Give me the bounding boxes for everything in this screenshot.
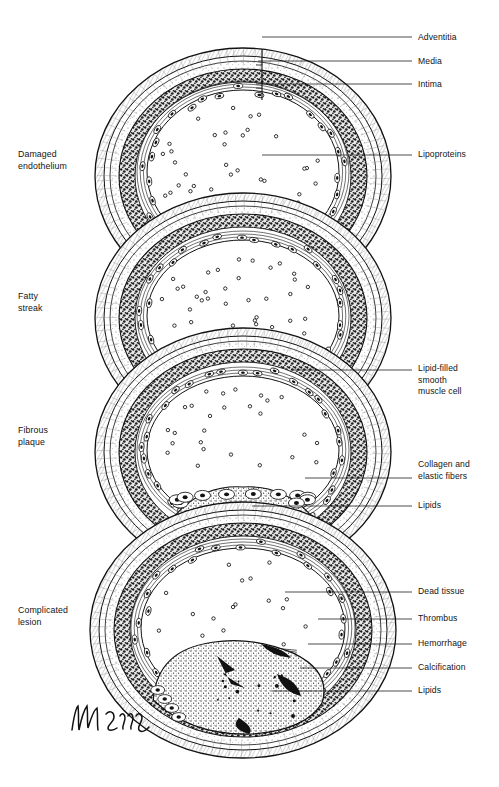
callout-label-lipoproteins: Lipoproteins (418, 149, 466, 161)
callout-label-lipid-filled-smooth-muscle-cell: Lipid-filled smooth muscle cell (418, 363, 462, 398)
callout-label-hemorrhage: Hemorrhage (418, 638, 467, 650)
ring-complicated-lesion (90, 502, 396, 758)
stage-label-fatty-streak: Fatty streak (18, 290, 43, 314)
callout-label-thrombus: Thrombus (418, 613, 458, 625)
callout-label-calcification: Calcification (418, 662, 466, 674)
stage-label-complicated-lesion: Complicated lesion (18, 604, 68, 628)
stage-label-damaged-endothelium: Damaged endothelium (18, 148, 67, 172)
callout-label-media: Media (418, 56, 442, 68)
callout-label-dead-tissue: Dead tissue (418, 586, 464, 598)
callout-label-intima: Intima (418, 79, 442, 91)
callout-label-adventitia: Adventitia (418, 32, 457, 44)
stage-label-fibrous-plaque: Fibrous plaque (18, 424, 48, 448)
callout-label-collagen-and-elastic-fibers: Collagen and elastic fibers (418, 459, 470, 482)
callout-label-lipids-plaque: Lipids (418, 500, 441, 512)
callout-label-lipids-lesion: Lipids (418, 685, 441, 697)
artery-rings (90, 48, 396, 758)
